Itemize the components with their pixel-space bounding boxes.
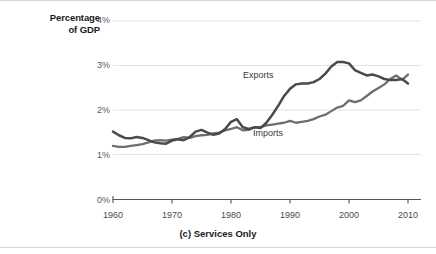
- chart-figure: Percentage of GDP 4% 3% 2% 1% 0% 1960 19…: [0, 0, 436, 254]
- bottom-divider: [0, 247, 436, 248]
- figure-caption: (c) Services Only: [0, 228, 436, 239]
- x-axis-line: [113, 196, 422, 204]
- series-label-imports: Imports: [253, 128, 283, 138]
- series-label-exports: Exports: [243, 70, 274, 80]
- chart-canvas: [0, 0, 436, 254]
